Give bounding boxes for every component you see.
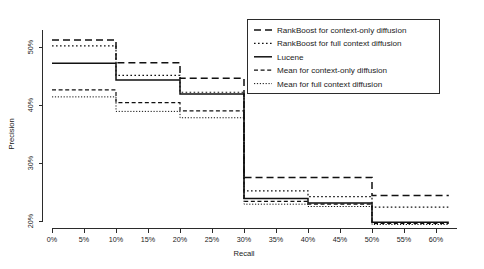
x-tick-label: 45% (333, 235, 348, 244)
y-tick-label: 20% (26, 213, 35, 228)
y-tick-label: 40% (26, 97, 35, 112)
legend-label-4: Mean for context-only diffusion (277, 66, 387, 75)
y-axis-title: Precision (7, 118, 16, 149)
x-tick-label: 15% (141, 235, 156, 244)
chart-legend[interactable]: RankBoost for context-only diffusionRank… (247, 19, 439, 93)
x-tick-label: 0% (47, 235, 58, 244)
y-tick-label: 30% (26, 155, 35, 170)
x-tick-label: 60% (429, 235, 444, 244)
y-tick-label: 50% (26, 39, 35, 54)
legend-label-5: Mean for full context diffusion (277, 80, 382, 89)
x-tick-label: 25% (205, 235, 220, 244)
legend-label-2: RankBoost for full context diffusion (277, 39, 401, 48)
x-tick-label: 40% (301, 235, 316, 244)
x-tick-label: 10% (109, 235, 124, 244)
x-tick-label: 5% (79, 235, 90, 244)
precision-recall-plot: 20%30%40%50% 0%5%10%15%20%25%30%35%40%45… (0, 0, 484, 269)
x-tick-label: 35% (269, 235, 284, 244)
x-tick-label: 50% (365, 235, 380, 244)
x-tick-label: 30% (237, 235, 252, 244)
x-axis-title: Recall (233, 249, 254, 258)
x-tick-label: 55% (397, 235, 412, 244)
x-tick-label: 20% (173, 235, 188, 244)
legend-label-3: Lucene (277, 53, 304, 62)
legend-label-1: RankBoost for context-only diffusion (277, 26, 406, 35)
chart-figure: 20%30%40%50% 0%5%10%15%20%25%30%35%40%45… (0, 0, 484, 269)
